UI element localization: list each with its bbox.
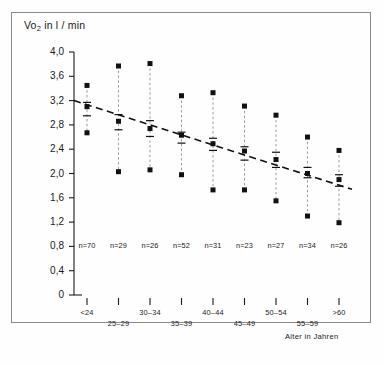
chart-title-subscript: 2 — [37, 24, 41, 33]
figure-border — [11, 12, 371, 323]
chart-title-base: Vo — [24, 19, 37, 31]
y-axis-tick-label: 1,2 — [36, 217, 64, 227]
sample-size-label: n=23 — [228, 241, 262, 250]
x-axis-tick-label: 25–29 — [96, 319, 142, 328]
chart-title: Vo2 in l / min — [24, 19, 85, 31]
y-axis-tick-label: 0 — [36, 290, 64, 300]
y-axis-tick-label: 4,0 — [36, 47, 64, 57]
y-axis-tick-label: 2,4 — [36, 144, 64, 154]
figure-root: Vo2 in l / min 4,03,63,22,82,42,01,61,20… — [0, 0, 384, 365]
sample-size-label: n=70 — [70, 241, 104, 250]
y-axis-tick-label: 2,0 — [36, 169, 64, 179]
x-axis-tick-label: <24 — [64, 308, 110, 317]
chart-title-units: in l / min — [41, 19, 85, 31]
sample-size-label: n=29 — [102, 241, 136, 250]
y-axis-tick-label: 1,6 — [36, 193, 64, 203]
y-axis-tick-label: 0,4 — [36, 266, 64, 276]
sample-size-label: n=52 — [165, 241, 199, 250]
sample-size-label: n=31 — [196, 241, 230, 250]
y-axis-tick-label: 0,8 — [36, 241, 64, 251]
x-axis-tick-label: 45–49 — [222, 319, 268, 328]
x-axis-tick-label: 30–34 — [127, 308, 173, 317]
y-axis-tick-label: 3,2 — [36, 96, 64, 106]
y-axis-tick-label: 2,8 — [36, 120, 64, 130]
x-axis-title: Alter in Jahren — [285, 332, 338, 341]
x-axis-tick-label: 50–54 — [253, 308, 299, 317]
y-axis-tick-label: 3,6 — [36, 71, 64, 81]
sample-size-label: n=34 — [291, 241, 325, 250]
x-axis-tick-label: 40–44 — [190, 308, 236, 317]
sample-size-label: n=27 — [259, 241, 293, 250]
x-axis-tick-label: 35–39 — [159, 319, 205, 328]
x-axis-tick-label: >60 — [316, 308, 362, 317]
sample-size-label: n=26 — [133, 241, 167, 250]
sample-size-label: n=26 — [322, 241, 356, 250]
x-axis-tick-label: 55–59 — [285, 319, 331, 328]
